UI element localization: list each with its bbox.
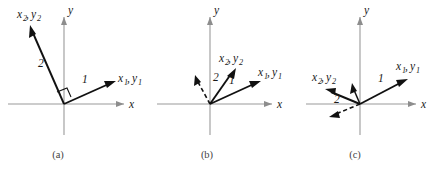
panel-a-x-axis-label: x <box>128 98 135 110</box>
panel-a-label-x2y2-y: y <box>30 8 37 21</box>
panel-b-x-axis-label: x <box>276 98 283 110</box>
panel-b-y-axis-label: y <box>213 4 220 17</box>
panel-c-y-axis-label: y <box>363 4 370 17</box>
panel-c-label-x2y2-x: x <box>311 71 318 83</box>
panel-a-label-x2y2-x: x <box>16 8 23 20</box>
panel-b-vector-reference-dashed <box>198 82 210 104</box>
panel-b-label-x1y1-comma: , <box>267 66 270 79</box>
panel-b-label-x1y1: x 1 , y 1 <box>257 66 282 81</box>
panel-c-y-axis-arrowhead <box>357 17 363 25</box>
panel-c-label-x1y1-y: y <box>409 60 416 73</box>
panel-a-label-x1y1-y: y <box>131 72 138 85</box>
panel-a-caption: (a) <box>52 149 64 161</box>
panel-c-vector-x1y1-arrowhead <box>396 79 408 87</box>
panel-b-label-x2y2: x 2 , y 2 <box>218 52 243 67</box>
panel-c-label-x1y1-comma: , <box>405 60 408 73</box>
panel-a: x y 1 x 1 , y 1 2 x 2 , y 2 (a) <box>8 4 142 161</box>
panel-c-vector-reference-dashed <box>336 104 360 114</box>
panel-b-caption: (b) <box>201 149 214 161</box>
panel-a-vector-x1y1 <box>64 83 111 104</box>
panel-b-label-x2y2-comma: , <box>228 52 231 65</box>
panel-c-label-x2y2-ysub: 2 <box>332 77 336 86</box>
panel-b: x y 1 x 1 , y 1 2 x 2 , y 2 (b) <box>157 4 283 161</box>
panel-c-label-x1y1-ysub: 1 <box>416 66 420 75</box>
panel-a-label-x2y2: x 2 , y 2 <box>16 8 41 23</box>
panel-c-vector-reference-dashed-arrowhead <box>329 111 340 118</box>
panel-a-label-x1y1-comma: , <box>127 72 130 85</box>
panel-c-label-x1y1: x 1 , y 1 <box>395 60 420 75</box>
panel-c-vector-x1y1 <box>360 82 402 104</box>
panel-b-label-x1y1-ysub: 1 <box>278 72 282 81</box>
panel-c-x-axis-label: x <box>420 98 427 110</box>
panel-a-label-x1y1-x: x <box>117 72 124 84</box>
panel-a-magnitude-1-label: 1 <box>82 73 88 85</box>
panel-a-y-axis-arrowhead <box>61 17 67 25</box>
panel-b-vector-x1y1-arrowhead <box>249 81 261 88</box>
panel-a-y-axis-label: y <box>67 4 74 17</box>
panel-c-caption: (c) <box>349 149 361 161</box>
panel-a-label-x2y2-comma: , <box>26 8 29 21</box>
panel-c-label-x1y1-x: x <box>395 60 402 72</box>
panel-b-magnitude-2-label: 2 <box>213 71 219 83</box>
vector-diagram-figure: x y 1 x 1 , y 1 2 x 2 , y 2 (a) <box>0 0 442 177</box>
panel-b-y-axis-arrowhead <box>207 17 213 25</box>
panel-a-label-x1y1: x 1 , y 1 <box>117 72 142 87</box>
panel-b-label-x2y2-x: x <box>218 52 225 64</box>
panel-c-label-x2y2-y: y <box>325 71 332 84</box>
panel-c-magnitude-1-label: 1 <box>378 72 384 84</box>
panel-b-label-x2y2-ysub: 2 <box>239 58 243 67</box>
panel-c-label-x2y2: x 2 , y 2 <box>311 71 336 86</box>
panel-a-label-x1y1-ysub: 1 <box>138 78 142 87</box>
panel-c-x-axis-arrowhead <box>408 101 416 107</box>
panel-b-label-x2y2-y: y <box>232 52 239 65</box>
panel-c: x y 1 x 1 , y 1 2 x 2 , y 2 <box>306 4 427 161</box>
panel-a-x-axis-arrowhead <box>116 101 124 107</box>
panel-a-magnitude-2-label: 2 <box>38 57 44 69</box>
panel-c-magnitude-2-label: 2 <box>334 93 340 105</box>
panel-b-label-x1y1-y: y <box>271 66 278 79</box>
panel-b-label-x1y1-x: x <box>257 66 264 78</box>
panel-c-label-x2y2-comma: , <box>321 71 324 84</box>
panel-a-label-x2y2-ysub: 2 <box>37 14 41 23</box>
panel-a-vector-x1y1-arrowhead <box>104 81 116 88</box>
panel-c-vector-short-solid-arrowhead <box>350 83 357 94</box>
panel-b-x-axis-arrowhead <box>264 101 272 107</box>
